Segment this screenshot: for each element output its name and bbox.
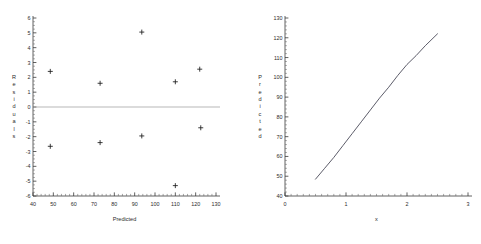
- y-axis-title: Predicted: [258, 74, 262, 139]
- y-axis-title-char: i: [259, 103, 260, 109]
- y-axis-title-char: s: [13, 89, 16, 95]
- y-axis-title-char: P: [258, 74, 262, 80]
- y-tick-label: 50: [277, 173, 283, 179]
- data-point-marker: [98, 81, 103, 86]
- y-axis-title-char: u: [12, 111, 15, 117]
- x-tick-label: 70: [91, 201, 97, 207]
- x-tick-label: 50: [50, 201, 56, 207]
- x-tick-label: 80: [111, 201, 117, 207]
- y-tick-label: 5: [28, 30, 31, 36]
- y-axis-title-char: e: [258, 89, 261, 95]
- x-tick-label: 40: [30, 201, 36, 207]
- y-tick-label: 120: [274, 35, 283, 41]
- y-tick-label: -6: [26, 193, 31, 199]
- y-axis-title-char: a: [12, 118, 16, 124]
- x-axis-title: x: [375, 216, 378, 222]
- x-tick-label: 1: [345, 201, 348, 207]
- predicted-curve-path: [316, 34, 438, 179]
- figure-container: -6-5-4-3-2-10123456405060708090100110120…: [0, 0, 481, 244]
- y-tick-label: 40: [277, 193, 283, 199]
- y-tick-label: 1: [28, 89, 31, 95]
- y-tick-label: -1: [26, 119, 31, 125]
- y-tick-label: 0: [28, 104, 31, 110]
- y-axis-title-char: l: [13, 126, 14, 132]
- y-axis-title-char: s: [13, 133, 16, 139]
- data-point-marker: [139, 133, 144, 138]
- y-tick-label: 110: [274, 55, 283, 61]
- data-point-marker: [173, 183, 178, 188]
- y-axis-title-char: d: [258, 96, 261, 102]
- residual-plot-panel: -6-5-4-3-2-10123456405060708090100110120…: [0, 0, 240, 244]
- y-axis-title-char: c: [259, 111, 262, 117]
- x-tick-label: 100: [151, 201, 160, 207]
- x-tick-label: 130: [212, 201, 221, 207]
- y-tick-label: 4: [28, 45, 31, 51]
- y-tick-label: 2: [28, 74, 31, 80]
- data-point-marker: [48, 69, 53, 74]
- y-axis-title-char: t: [259, 118, 261, 124]
- y-tick-label: 3: [28, 60, 31, 66]
- x-tick-label: 3: [467, 201, 470, 207]
- y-axis-title-char: d: [258, 133, 261, 139]
- y-tick-label: 60: [277, 153, 283, 159]
- y-axis-title-char: d: [12, 103, 15, 109]
- x-tick-label: 2: [406, 201, 409, 207]
- x-tick-label: 0: [284, 201, 287, 207]
- y-tick-label: -5: [26, 178, 31, 184]
- x-tick-label: 120: [191, 201, 200, 207]
- y-tick-label: -4: [26, 163, 31, 169]
- data-point-marker: [197, 67, 202, 72]
- y-axis-title-char: e: [258, 126, 261, 132]
- x-tick-label: 90: [132, 201, 138, 207]
- y-axis-title-char: i: [13, 96, 14, 102]
- y-axis-title-char: r: [259, 81, 261, 87]
- y-tick-label: 130: [274, 15, 283, 21]
- x-tick-label: 60: [71, 201, 77, 207]
- residual-plot-svg: -6-5-4-3-2-10123456405060708090100110120…: [0, 0, 240, 244]
- y-tick-label: 6: [28, 15, 31, 21]
- y-tick-label: -3: [26, 149, 31, 155]
- y-tick-label: -2: [26, 134, 31, 140]
- y-tick-label: 90: [277, 94, 283, 100]
- predicted-curve-panel: 4050607080901001101201300123xPredicted: [240, 0, 481, 244]
- y-axis-title-char: R: [12, 74, 16, 80]
- y-tick-label: 70: [277, 134, 283, 140]
- data-point-marker: [139, 30, 144, 35]
- y-axis-title: Residuals: [12, 74, 16, 139]
- data-point-marker: [173, 79, 178, 84]
- predicted-curve-svg: 4050607080901001101201300123xPredicted: [240, 0, 481, 244]
- data-point-marker: [48, 144, 53, 149]
- y-axis-title-char: e: [12, 81, 15, 87]
- x-axis-title: Predicted: [113, 216, 137, 222]
- data-point-marker: [198, 125, 203, 130]
- y-tick-label: 100: [274, 74, 283, 80]
- y-tick-label: 80: [277, 114, 283, 120]
- data-point-group: [48, 30, 203, 189]
- x-tick-label: 110: [171, 201, 180, 207]
- data-point-marker: [98, 140, 103, 145]
